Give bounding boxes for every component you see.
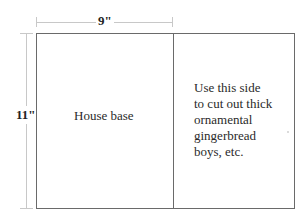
right-panel-line: Use this side: [194, 80, 272, 96]
right-panel-text: Use this side to cut out thick ornamenta…: [194, 80, 272, 160]
height-dimension-bottom-tick: [20, 208, 33, 209]
right-panel-line: gingerbread: [194, 128, 272, 144]
height-dimension-label: 11": [16, 106, 36, 124]
width-dimension-right-tick: [172, 17, 173, 27]
width-dimension-label: 9": [96, 14, 114, 28]
left-panel-label: House base: [74, 108, 134, 124]
right-panel-line: ornamental: [194, 112, 272, 128]
center-divider: [173, 33, 174, 209]
right-panel-line: boys, etc.: [194, 144, 272, 160]
speck-mark: [287, 131, 289, 133]
right-panel-line: to cut out thick: [194, 96, 272, 112]
